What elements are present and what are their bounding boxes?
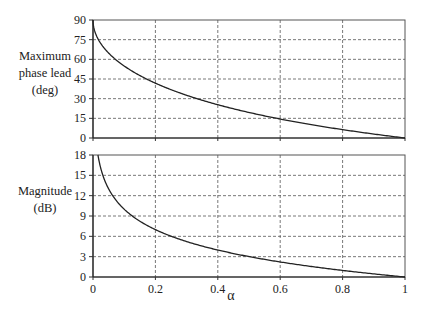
top-ylabel-line-3: (deg) [2,82,88,99]
y-tick-label: 18 [74,148,86,162]
y-tick-label: 3 [80,250,86,264]
bottom-ylabel-line-1: Magnitude [2,183,88,200]
top-ylabel-line-2: phase lead [2,65,88,82]
x-tick-label: 1 [402,282,408,296]
top-ylabel-line-1: Maximum [2,48,88,65]
y-tick-label: 15 [74,168,86,182]
y-tick-label: 15 [74,111,86,125]
x-axis-label: α [227,288,235,303]
bottom-ylabel-line-2: (dB) [2,200,88,217]
y-tick-label: 90 [74,13,86,27]
x-tick-label: 0.2 [148,282,163,296]
chart-canvas: 0153045607590036912151800.20.40.60.81α [0,0,421,310]
x-tick-label: 0.4 [210,282,225,296]
lead-compensator-chart: 0153045607590036912151800.20.40.60.81α M… [0,0,421,310]
phase-lead-panel: 0153045607590 [74,13,405,145]
x-tick-label: 0.8 [335,282,350,296]
y-tick-label: 6 [80,229,86,243]
y-tick-label: 75 [74,33,86,47]
bottom-y-axis-label: Magnitude (dB) [2,183,88,217]
y-tick-label: 0 [80,270,86,284]
x-tick-label: 0.6 [273,282,288,296]
top-y-axis-label: Maximum phase lead (deg) [2,48,88,99]
magnitude-panel: 036912151800.20.40.60.81 [74,148,408,296]
y-tick-label: 0 [80,131,86,145]
x-tick-label: 0 [90,282,96,296]
